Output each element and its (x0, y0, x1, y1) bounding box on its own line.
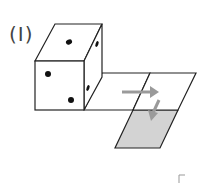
cube-front-face (35, 61, 84, 110)
front-face-dot (45, 71, 51, 77)
front-face-dot (68, 97, 74, 103)
die-net-diagram (0, 0, 210, 185)
corner-mark (179, 175, 185, 183)
shaded-net-face (115, 110, 178, 148)
